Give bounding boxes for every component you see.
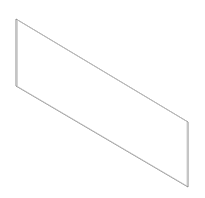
panel-outline (16, 19, 188, 187)
panel-edge-inner (18, 20, 188, 186)
panel-edge-inner-bottom (18, 20, 188, 186)
panel-face-outer (16, 19, 188, 187)
panel-drawing (0, 0, 205, 198)
